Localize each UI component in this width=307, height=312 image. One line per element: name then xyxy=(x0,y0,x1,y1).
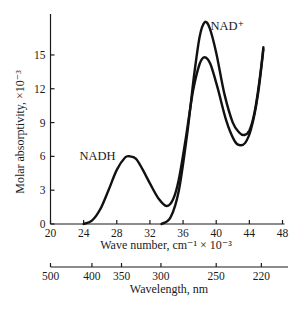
wavelength-tick-label: 500 xyxy=(42,270,60,282)
y-axis-title: Molar absorptivity, ×10⁻³ xyxy=(13,70,27,194)
x-tick-label: 24 xyxy=(78,227,90,239)
absorption-spectrum-chart: 03691215 2024283236404448 50040035030025… xyxy=(0,0,307,312)
secondary-x-axis-title: Wavelength, nm xyxy=(130,282,209,296)
x-tick-label: 44 xyxy=(244,227,256,239)
nadh-label: NADH xyxy=(80,149,116,163)
wavelength-tick-label: 400 xyxy=(83,270,101,282)
x-axis-title: Wave number, cm⁻¹ × 10⁻³ xyxy=(100,238,232,252)
y-tick-label: 6 xyxy=(40,150,46,162)
wavelength-tick-label: 250 xyxy=(208,270,226,282)
x-tick-label: 48 xyxy=(277,227,289,239)
y-tick-label: 9 xyxy=(40,117,46,129)
nad-plus-label: NAD⁺ xyxy=(210,19,244,33)
wavelength-tick-label: 350 xyxy=(113,270,131,282)
nad-plus-curve xyxy=(162,22,264,224)
x-axis-wavelength: 500400350300250220 xyxy=(42,263,288,282)
y-tick-label: 12 xyxy=(34,83,46,95)
nadh-curve xyxy=(84,49,264,224)
y-tick-label: 3 xyxy=(40,184,46,196)
wavelength-tick-label: 220 xyxy=(253,270,271,282)
y-axis: 03691215 xyxy=(34,14,55,230)
y-tick-label: 15 xyxy=(34,49,46,61)
x-tick-label: 20 xyxy=(45,227,57,239)
wavelength-tick-label: 300 xyxy=(152,270,170,282)
spectrum-curves xyxy=(84,22,264,224)
